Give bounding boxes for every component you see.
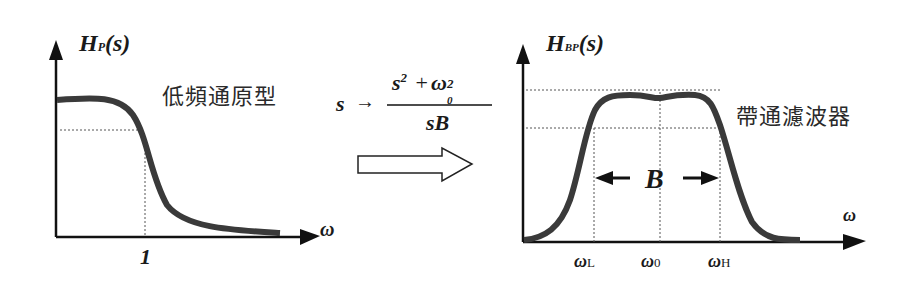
right-y-label-main: H bbox=[546, 30, 565, 56]
numerator-plus: + bbox=[416, 70, 428, 95]
omega-L-main: ω bbox=[574, 251, 587, 271]
left-x-axis-label: ω bbox=[320, 218, 334, 241]
omega-H-main: ω bbox=[708, 251, 721, 271]
omega-0-sub: 0 bbox=[654, 255, 661, 270]
transform-lhs: s bbox=[336, 91, 345, 117]
numerator-s: s bbox=[392, 70, 401, 95]
x-tick-omega-H: ωH bbox=[708, 251, 730, 272]
lowpass-chart bbox=[49, 40, 320, 245]
left-x-axis-arrowhead-icon bbox=[300, 229, 320, 245]
bandwidth-left-arrow-icon bbox=[595, 171, 613, 185]
left-y-label-sub: P bbox=[98, 40, 105, 54]
omega-L-sub: L bbox=[587, 255, 595, 270]
left-y-axis-arrowhead-icon bbox=[49, 40, 63, 60]
bandwidth-right-arrow-icon bbox=[701, 171, 719, 185]
x-tick-omega-L: ωL bbox=[574, 251, 595, 272]
bandpass-chart bbox=[516, 44, 866, 250]
transform-numerator: s2 +ω20 bbox=[392, 70, 457, 96]
left-y-label-main: H bbox=[79, 30, 98, 56]
right-x-axis-label: ω bbox=[843, 205, 856, 226]
lowpass-caption: 低頻通原型 bbox=[162, 78, 277, 110]
right-y-axis-arrowhead-icon bbox=[516, 44, 530, 64]
bandpass-caption: 帶通濾波器 bbox=[736, 98, 851, 130]
diagram-canvas bbox=[0, 0, 905, 286]
lowpass-response-curve bbox=[57, 98, 280, 233]
left-y-axis-label: HP(s) bbox=[79, 30, 130, 57]
left-x-tick-1: 1 bbox=[140, 244, 151, 270]
numerator-omega-exp: 2 bbox=[447, 76, 454, 92]
right-y-label-sub: BP bbox=[565, 41, 579, 53]
transform-hollow-arrow-icon bbox=[358, 148, 472, 181]
right-y-axis-label: HBP(s) bbox=[546, 30, 604, 57]
numerator-omega: ω bbox=[431, 70, 447, 95]
bandwidth-label: B bbox=[645, 163, 664, 195]
right-x-axis-arrowhead-icon bbox=[843, 234, 866, 250]
transform-denominator: sB bbox=[426, 110, 449, 136]
right-y-label-arg: (s) bbox=[579, 30, 604, 56]
omega-0-main: ω bbox=[641, 251, 654, 271]
transform-maps-to-arrow-icon: → bbox=[355, 90, 375, 113]
numerator-s-exp: 2 bbox=[401, 70, 408, 85]
omega-H-sub: H bbox=[721, 255, 730, 270]
x-tick-omega-0: ω0 bbox=[641, 251, 661, 272]
numerator-omega-sub: 0 bbox=[447, 94, 453, 106]
left-y-label-arg: (s) bbox=[105, 30, 130, 56]
